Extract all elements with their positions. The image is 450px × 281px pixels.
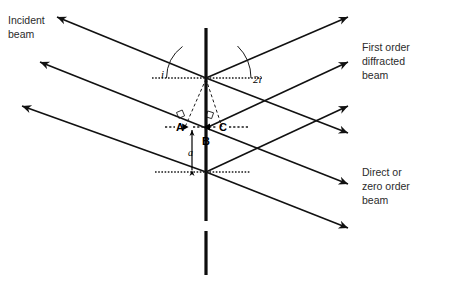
first-order-beam-3 [206,106,348,172]
incident-beam-label-line2: beam [8,28,35,40]
grating-spacing-label: a [188,147,193,158]
incident-beam-label-line1: Incident [8,14,45,26]
incident-beam-3 [22,106,206,172]
zero-order-beam-1 [206,78,348,133]
figure-canvas: Incident beam First order diffracted bea… [0,0,450,281]
zero-order-label-line3: beam [362,194,389,206]
incident-beam-group [22,17,206,172]
construction-line-to-a [185,79,206,127]
angle-i-label: i [161,68,164,80]
first-order-label-line1: First order [362,41,410,53]
first-order-beam-2 [206,62,348,128]
zero-order-label-line1: Direct or [362,166,402,178]
angle-2i-label: 2i [253,73,262,85]
first-order-beam-1 [206,17,348,78]
incident-beam-2 [40,62,206,128]
first-order-label-line2: diffracted [362,55,405,67]
angle-arc-group [167,46,252,78]
point-c-label: C [219,121,227,133]
incident-beam-1 [57,17,206,78]
zero-order-label-line2: zero order [362,180,410,192]
construction-line-to-c [206,79,222,127]
diffraction-grating-diagram: Incident beam First order diffracted bea… [0,0,450,281]
point-a-label: A [176,121,184,133]
zero-order-beam-group [206,78,348,228]
zero-order-beam-2 [206,128,348,184]
point-b-label: B [202,135,210,147]
first-order-label-line3: beam [362,69,389,81]
first-order-beam-group [206,17,348,172]
zero-order-beam-3 [206,172,348,228]
